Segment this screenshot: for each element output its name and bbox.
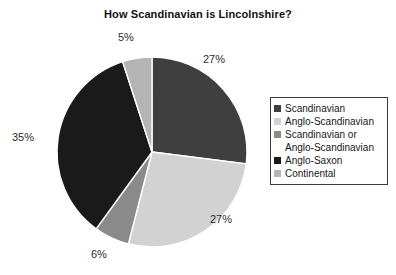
legend-item: Scandinavian or [274,128,383,141]
legend-item: Scandinavian [274,102,383,115]
pie-chart-figure: How Scandinavian is Lincolnshire? 5%27%2… [0,0,396,275]
legend-item-label: Scandinavian [285,102,345,115]
pie-plot-area: 5%27%27%6%35% [0,0,270,275]
legend-swatch-icon [274,131,281,138]
legend-item: Continental [274,167,383,180]
legend-rows: ScandinavianAnglo-ScandinavianScandinavi… [274,102,383,180]
slice-percent-label: 35% [12,131,34,143]
legend-swatch-icon [274,118,281,125]
legend-item: Anglo-Saxon [274,154,383,167]
slice-percent-label: 5% [118,31,134,43]
legend-swatch-icon [274,170,281,177]
legend-swatch-icon [274,157,281,164]
slice-percent-label: 27% [203,53,225,65]
chart-legend: ScandinavianAnglo-ScandinavianScandinavi… [270,97,388,185]
legend-swatch-icon [274,105,281,112]
legend-item-label: Scandinavian or [285,128,357,141]
legend-swatch-spacer [274,144,281,151]
legend-item-label: Anglo-Scandinavian [285,115,374,128]
legend-item-label: Anglo-Saxon [285,154,342,167]
pie-slice-1 [152,57,247,164]
legend-item-label: Continental [285,167,336,180]
slice-percent-label: 27% [210,213,232,225]
pie-svg [0,0,270,275]
legend-item: Anglo-Scandinavian [274,115,383,128]
legend-item: Anglo-Scandinavian [274,141,383,154]
slice-percent-label: 6% [91,248,107,260]
legend-item-label: Anglo-Scandinavian [285,141,374,154]
